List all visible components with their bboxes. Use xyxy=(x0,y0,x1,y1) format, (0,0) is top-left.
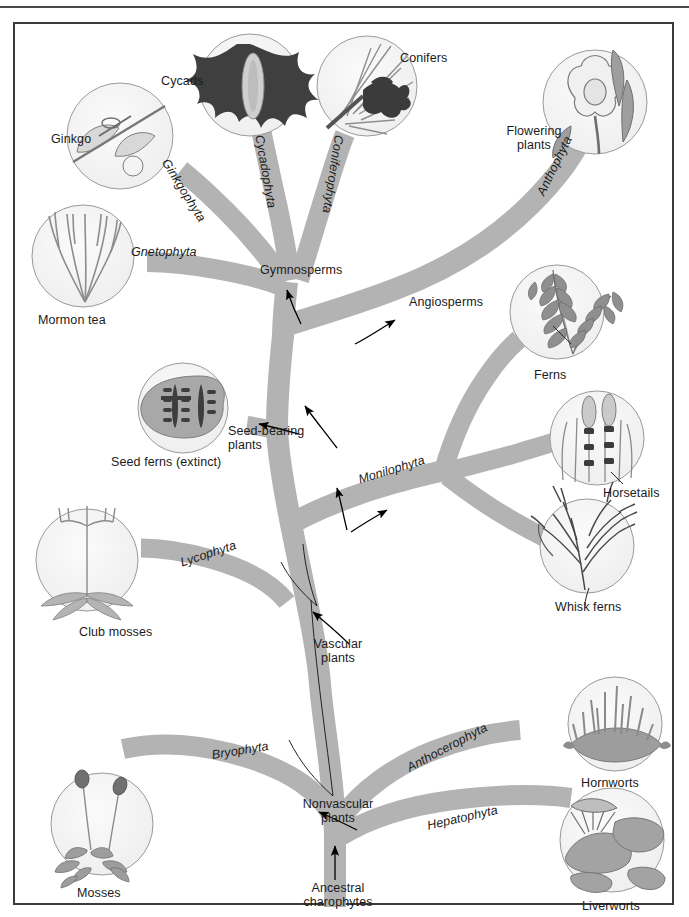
label-cycads: Cycads xyxy=(161,75,203,88)
label-whisk-ferns: Whisk ferns xyxy=(555,601,621,614)
arrow-to-angiosperms xyxy=(355,320,395,344)
label-mosses: Mosses xyxy=(77,887,121,900)
illustration-mosses xyxy=(51,770,153,888)
illustration-club-mosses xyxy=(36,506,138,620)
node-label-seed-bearing-plants: Seed-bearing plants xyxy=(228,424,314,452)
label-mormon-tea: Mormon tea xyxy=(38,314,106,327)
illustration-liverworts xyxy=(560,788,665,892)
branch-monilo-whiskferns xyxy=(447,476,557,543)
label-hornworts: Hornworts xyxy=(581,777,639,790)
phylum-label-gnetophyta: Gnetophyta xyxy=(131,246,197,259)
header-rule xyxy=(0,6,689,8)
node-label-ancestral-charophytes: Ancestral charophytes xyxy=(295,881,381,909)
label-conifers: Conifers xyxy=(400,52,447,65)
branch-seed-to-gymno xyxy=(283,282,287,339)
illustration-ferns xyxy=(510,265,623,359)
node-label-angiosperms: Angiosperms xyxy=(409,296,483,309)
branch-monilo-horsetails xyxy=(449,438,565,471)
node-label-vascular-plants: Vascular plants xyxy=(305,637,371,665)
illustration-hornworts xyxy=(563,677,671,771)
figure-frame: Ginkgo Cycads Conifers Flowering plants … xyxy=(13,22,674,905)
label-ferns: Ferns xyxy=(534,369,566,382)
arrow-to-monilophyta xyxy=(351,510,387,532)
label-horsetails: Horsetails xyxy=(603,487,660,500)
label-ginkgo: Ginkgo xyxy=(51,133,91,146)
label-liverworts: Liverworts xyxy=(582,900,640,913)
branch-vascular-to-seed xyxy=(277,336,283,429)
node-label-gymnosperms: Gymnosperms xyxy=(260,264,342,277)
illustration-mormon-tea xyxy=(32,205,134,307)
illustration-cycads xyxy=(185,34,319,136)
illustration-seed-ferns xyxy=(138,363,228,453)
node-label-nonvascular-plants: Nonvascular plants xyxy=(296,797,380,825)
label-seed-ferns: Seed ferns (extinct) xyxy=(111,456,221,469)
label-club-mosses: Club mosses xyxy=(79,626,152,639)
illustration-horsetails xyxy=(550,391,644,485)
